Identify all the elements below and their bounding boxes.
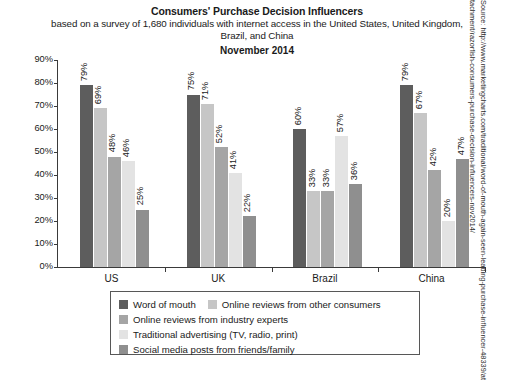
- title-block: Consumers' Purchase Decision Influencers…: [42, 5, 472, 57]
- x-axis-category-label-us: US: [58, 273, 165, 285]
- bar-value-label: 79%: [81, 63, 90, 81]
- bar[interactable]: 57%: [335, 60, 348, 267]
- bar-value-label: 22%: [244, 194, 253, 212]
- bar[interactable]: 20%: [442, 60, 455, 267]
- bar-value-label: 60%: [294, 107, 303, 125]
- y-axis-tick-label: 80%: [34, 78, 53, 87]
- legend-item-2[interactable]: Online reviews from industry experts: [119, 314, 288, 325]
- bar-rect[interactable]: [243, 216, 256, 267]
- legend-item-4[interactable]: Social media posts from friends/family: [119, 344, 295, 355]
- bar[interactable]: 71%: [201, 60, 214, 267]
- bar-rect[interactable]: [307, 191, 320, 267]
- bar-rect[interactable]: [335, 136, 348, 267]
- legend-row: Online reviews from industry experts: [119, 312, 419, 326]
- x-axis-tick-mark: [165, 267, 166, 272]
- plot-area: 90%80%70%60%50%40%30%20%10%0% 79%69%48%4…: [57, 60, 485, 268]
- bar-rect[interactable]: [321, 191, 334, 267]
- x-axis-tick-mark: [378, 267, 379, 272]
- bar-rect[interactable]: [400, 85, 413, 267]
- bar-rect[interactable]: [428, 170, 441, 267]
- bar-value-label: 52%: [216, 125, 225, 143]
- bar[interactable]: 36%: [349, 60, 362, 267]
- legend-label: Traditional advertising (TV, radio, prin…: [133, 329, 298, 340]
- chart-date: November 2014: [42, 44, 472, 57]
- source-attribution: Source: http://www.marketingcharts.com/t…: [465, 0, 489, 381]
- legend-row: Traditional advertising (TV, radio, prin…: [119, 327, 419, 341]
- y-axis-tick-label: 70%: [34, 101, 53, 110]
- legend-label: Word of mouth: [133, 299, 196, 310]
- x-axis-category-label-brazil: Brazil: [272, 273, 379, 285]
- bar-rect[interactable]: [414, 113, 427, 267]
- x-axis-tick-mark: [272, 267, 273, 272]
- x-axis-category-label-uk: UK: [165, 273, 272, 285]
- bar[interactable]: 46%: [122, 60, 135, 267]
- legend-swatch-icon: [119, 315, 128, 324]
- bar-rect[interactable]: [215, 147, 228, 267]
- legend-item-3[interactable]: Traditional advertising (TV, radio, prin…: [119, 329, 298, 340]
- y-axis-tick-label: 40%: [34, 170, 53, 179]
- bar-rect[interactable]: [229, 173, 242, 267]
- bar[interactable]: 33%: [321, 60, 334, 267]
- y-axis-tick-label: 10%: [34, 239, 53, 248]
- legend-label: Social media posts from friends/family: [133, 344, 295, 355]
- bar-rect[interactable]: [136, 210, 149, 268]
- bar-rect[interactable]: [122, 161, 135, 267]
- bar-value-label: 57%: [336, 114, 345, 132]
- bar-value-label: 42%: [429, 148, 438, 166]
- bar-value-label: 71%: [202, 81, 211, 99]
- legend-item-1[interactable]: Online reviews from other consumers: [208, 299, 381, 310]
- bar-rect[interactable]: [201, 104, 214, 267]
- legend-label: Online reviews from other consumers: [222, 299, 381, 310]
- legend-swatch-icon: [119, 330, 128, 339]
- bar-rect[interactable]: [349, 184, 362, 267]
- bar-rect[interactable]: [187, 95, 200, 268]
- chart-page: Consumers' Purchase Decision Influencers…: [0, 0, 514, 381]
- y-axis-tick-label: 20%: [34, 216, 53, 225]
- bar-value-label: 79%: [401, 63, 410, 81]
- bar-rect[interactable]: [293, 129, 306, 267]
- bar[interactable]: 25%: [136, 60, 149, 267]
- bar[interactable]: 79%: [400, 60, 413, 267]
- bar[interactable]: 41%: [229, 60, 242, 267]
- legend-row: Word of mouthOnline reviews from other c…: [119, 297, 419, 311]
- bar[interactable]: 33%: [307, 60, 320, 267]
- bar[interactable]: 69%: [94, 60, 107, 267]
- bar-value-label: 75%: [188, 72, 197, 90]
- bar-value-label: 67%: [415, 91, 424, 109]
- bar-rect[interactable]: [442, 221, 455, 267]
- bar-value-label: 25%: [137, 187, 146, 205]
- bar[interactable]: 67%: [414, 60, 427, 267]
- bar[interactable]: 52%: [215, 60, 228, 267]
- bar-rect[interactable]: [80, 85, 93, 267]
- bar-group-brazil: 60%33%33%57%36%Brazil: [272, 60, 379, 267]
- y-axis-tick-label: 0%: [40, 262, 53, 271]
- legend-swatch-icon: [119, 345, 128, 354]
- bar-value-label: 69%: [95, 86, 104, 104]
- y-axis-tick-mark: [54, 267, 58, 268]
- bar[interactable]: 75%: [187, 60, 200, 267]
- bar[interactable]: 60%: [293, 60, 306, 267]
- chart-legend: Word of mouthOnline reviews from other c…: [110, 291, 420, 355]
- bar-rect[interactable]: [94, 108, 107, 267]
- bar-value-label: 46%: [123, 139, 132, 157]
- bar[interactable]: 22%: [243, 60, 256, 267]
- y-axis-tick-label: 30%: [34, 193, 53, 202]
- legend-swatch-icon: [119, 300, 128, 309]
- chart-subtitle: based on a survey of 1,680 individuals w…: [42, 18, 472, 43]
- legend-row: Social media posts from friends/family: [119, 342, 419, 356]
- bar[interactable]: 79%: [80, 60, 93, 267]
- bar-group-uk: 75%71%52%41%22%UK: [165, 60, 272, 267]
- legend-item-0[interactable]: Word of mouth: [119, 299, 196, 310]
- bar[interactable]: 48%: [108, 60, 121, 267]
- bar-value-label: 20%: [443, 199, 452, 217]
- y-axis-tick-label: 60%: [34, 124, 53, 133]
- y-axis-tick-label: 50%: [34, 147, 53, 156]
- bar[interactable]: 42%: [428, 60, 441, 267]
- bar-rect[interactable]: [108, 157, 121, 267]
- y-axis-tick-label: 90%: [34, 55, 53, 64]
- bar-value-label: 41%: [230, 150, 239, 168]
- bar-group-us: 79%69%48%46%25%US: [58, 60, 165, 267]
- legend-swatch-icon: [208, 300, 217, 309]
- bar-value-label: 33%: [308, 169, 317, 187]
- legend-label: Online reviews from industry experts: [133, 314, 288, 325]
